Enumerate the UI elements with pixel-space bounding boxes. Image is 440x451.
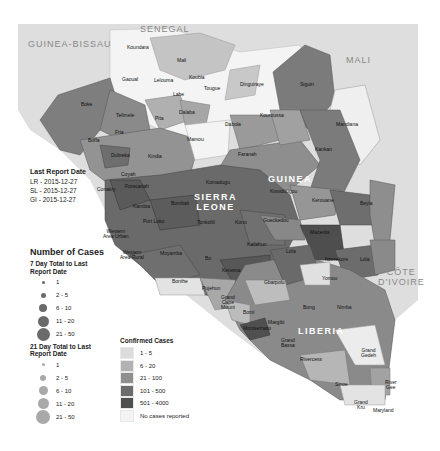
neighbor-label-cote-divoire: CÔTE D'IVOIRE (378, 268, 425, 288)
seven-day-label: 1 (56, 279, 59, 285)
twentyone-day-label: 11 - 20 (56, 401, 74, 407)
district-label: Bonthe (172, 279, 188, 284)
circle-icon (42, 281, 45, 284)
district-label: Western Area Urban (103, 229, 129, 239)
twentyone-day-label: 1 (56, 362, 59, 368)
district-label: Bomi (243, 310, 254, 315)
confirmed-item: 501 - 4000 (120, 397, 189, 410)
twentyone-day-label: 21 - 50 (56, 414, 75, 420)
capital-label-conakry: Conakry (97, 187, 116, 192)
district-label: Rivercess (300, 357, 322, 362)
confirmed-label: 101 - 500 (140, 388, 165, 394)
confirmed-item: 21 - 100 (120, 372, 189, 385)
confirmed-item: 6 - 20 (120, 360, 189, 373)
swatch-icon (120, 410, 134, 422)
district-label: Kindia (148, 154, 162, 159)
district-label: Dalaba (179, 110, 195, 115)
district-label: Grand Gedeh (361, 348, 376, 358)
district-label: Tonkolili (197, 220, 215, 225)
district-label: Kenema (222, 268, 241, 273)
seven-day-title: 7 Day Total to Last Report Date (30, 260, 95, 276)
seven-day-label: 11 - 20 (56, 318, 74, 324)
country-label-sierra-leone: SIERRA LEONE (194, 193, 237, 213)
district-label: Mandiana (336, 122, 358, 127)
grand-kru-label-2: Kru (354, 405, 368, 410)
seven-day-item: 11 - 20 (30, 315, 125, 328)
district-label: Bombali (171, 201, 189, 206)
district-label: Gbarpolu (264, 280, 285, 285)
last-report-date-block: Last Report Date LR - 2015-12-27 SL - 20… (30, 168, 86, 204)
district-label: Boffa (88, 138, 100, 143)
confirmed-label: 6 - 20 (140, 363, 155, 369)
swatch-icon (120, 360, 134, 372)
district-label: Siguiri (300, 82, 314, 87)
confirmed-label: 501 - 4000 (140, 400, 169, 406)
district-label: Montserrado (243, 326, 271, 331)
cases-legend: Number of Cases 7 Day Total to Last Repo… (30, 247, 125, 423)
confirmed-label: No cases reported (140, 413, 189, 419)
district-label: Moyamba (160, 251, 182, 256)
district-label: Labe (173, 92, 184, 97)
leone-label: LEONE (194, 203, 237, 213)
confirmed-cases-title: Confirmed Cases (120, 337, 189, 344)
seven-day-label: 21 - 50 (56, 331, 75, 337)
district-label: Kambia (133, 204, 150, 209)
district-label: Dabola (225, 122, 241, 127)
swatch-icon (120, 397, 134, 409)
district-label: Grand Bassa (281, 338, 295, 348)
confirmed-item: No cases reported (120, 410, 189, 423)
district-label: Mamou (187, 137, 204, 142)
district-label: Gueckedou (263, 218, 289, 223)
district-label: Kono (235, 220, 247, 225)
twentyone-day-title: 21 Day Total to Last Report Date (30, 343, 95, 359)
district-label: Koundara (127, 45, 149, 50)
grand-gedeh-label-2: Gedeh (361, 353, 376, 358)
district-label: Kerouane (312, 198, 334, 203)
circle-icon (36, 410, 50, 424)
district-yomou (300, 262, 330, 285)
district-label: Grand Kru (354, 400, 368, 410)
gcm-label-3: Mount (221, 305, 235, 310)
district-label: Beyla (360, 201, 373, 206)
neighbor-label-guinea-bissau: GUINEA-BISSAU (28, 40, 112, 50)
twentyone-day-item: 11 - 20 (30, 397, 125, 410)
circle-icon (39, 386, 48, 395)
district-label: Koubia (189, 75, 205, 80)
legend-title: Number of Cases (30, 247, 125, 257)
district-label: Telimele (116, 113, 134, 118)
district-label: Boke (81, 102, 92, 107)
district-label: Fria (115, 130, 124, 135)
district-label: Port Loko (143, 219, 164, 224)
neighbor-label-senegal: SENEGAL (140, 25, 190, 35)
report-date-lr: LR - 2015-12-27 (30, 177, 86, 186)
twentyone-day-label: 2 - 5 (56, 375, 68, 381)
district-label: Tougue (204, 86, 220, 91)
seven-day-item: 21 - 50 (30, 328, 125, 341)
confirmed-label: 21 - 100 (140, 375, 162, 381)
seven-day-item: 6 - 10 (30, 302, 125, 315)
district-label: Koinadugu (206, 180, 230, 185)
district-label: Kailahun (247, 242, 266, 247)
district-label: Nimba (337, 305, 351, 310)
district-label: Macenta (310, 230, 329, 235)
last-report-date-title: Last Report Date (30, 168, 86, 175)
circle-icon (37, 328, 50, 341)
district-label: River Gee (385, 380, 397, 390)
district-label: Sinoe (335, 382, 348, 387)
district-label: Yomou (322, 276, 337, 281)
confirmed-item: 1 - 5 (120, 347, 189, 360)
confirmed-label: 1 - 5 (140, 350, 152, 356)
district-label: Kankan (315, 147, 332, 152)
swatch-icon (120, 347, 134, 359)
seven-day-label: 2 - 5 (56, 292, 68, 298)
confirmed-cases-legend: Confirmed Cases 1 - 5 6 - 20 21 - 100 10… (120, 337, 189, 422)
seven-day-item: 1 (30, 276, 125, 289)
swatch-icon (120, 385, 134, 397)
twentyone-day-item: 6 - 10 (30, 384, 125, 397)
district-label: Lola (360, 257, 369, 262)
seven-day-item: 2 - 5 (30, 289, 125, 302)
district-label: Grand Cape Mount (221, 295, 235, 310)
report-date-gi: GI - 2015-12-27 (30, 195, 86, 204)
neighbor-label-mali: MALI (346, 56, 371, 66)
country-label-liberia: LIBERIA (298, 327, 345, 337)
